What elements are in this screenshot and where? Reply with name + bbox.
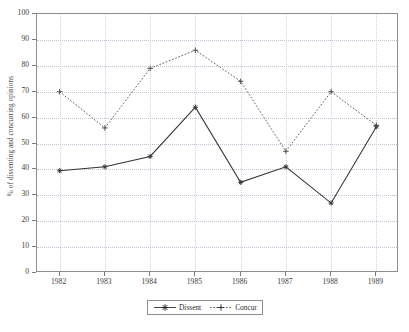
figure-caption: [0, 322, 409, 332]
x-axis-tick-mark: [194, 272, 195, 276]
x-axis-tick-label: 1989: [355, 277, 395, 286]
x-axis-tick-label: 1984: [129, 277, 169, 286]
x-axis-tick-label: 1986: [220, 277, 260, 286]
x-axis-tick-label: 1982: [39, 277, 79, 286]
data-point-concur: [374, 123, 380, 129]
legend-swatch-dissent: [153, 303, 177, 312]
y-axis-tick-label: 60: [3, 113, 29, 121]
y-axis-tick-label: 100: [3, 9, 29, 17]
data-point-dissent: [57, 168, 62, 173]
y-axis-tick-label: 90: [3, 35, 29, 43]
series-plot: [37, 14, 399, 273]
data-point-concur: [238, 79, 244, 85]
y-axis-tick-label: 50: [3, 139, 29, 147]
y-axis-tick-label: 30: [3, 190, 29, 198]
data-point-dissent: [102, 164, 107, 169]
series-line-concur: [60, 50, 377, 151]
data-point-concur: [193, 47, 199, 53]
legend-entry-dissent[interactable]: Dissent: [153, 303, 201, 312]
y-axis-tick-label: 80: [3, 61, 29, 69]
x-axis-tick-mark: [104, 272, 105, 276]
x-axis-tick-mark: [330, 272, 331, 276]
x-axis-tick-mark: [375, 272, 376, 276]
x-axis-tick-mark: [59, 272, 60, 276]
x-axis-tick-mark: [149, 272, 150, 276]
legend-entry-concur[interactable]: Concur: [209, 303, 257, 312]
data-point-dissent: [283, 164, 288, 169]
chart-legend: Dissent Concur: [147, 300, 263, 315]
x-axis-tick-label: 1985: [174, 277, 214, 286]
y-axis-tick-mark: [32, 272, 36, 273]
series-line-dissent: [60, 107, 377, 203]
legend-label-dissent: Dissent: [179, 303, 201, 312]
data-point-dissent: [148, 154, 153, 159]
data-point-dissent: [329, 200, 334, 205]
plot-area: [36, 13, 398, 272]
legend-swatch-concur: [209, 303, 233, 312]
data-point-concur: [57, 89, 63, 95]
y-axis-tick-label: 70: [3, 87, 29, 95]
x-axis-tick-label: 1988: [310, 277, 350, 286]
chart-figure: % of dissenting and concurring opinions …: [0, 0, 409, 332]
y-axis-tick-label: 20: [3, 216, 29, 224]
data-point-dissent: [193, 105, 198, 110]
y-axis-tick-label: 40: [3, 164, 29, 172]
data-point-dissent: [238, 180, 243, 185]
x-axis-tick-label: 1987: [265, 277, 305, 286]
x-axis-tick-mark: [285, 272, 286, 276]
x-axis-tick-label: 1983: [84, 277, 124, 286]
y-axis-tick-label: 10: [3, 242, 29, 250]
y-axis-tick-label: 0: [3, 268, 29, 276]
data-point-concur: [283, 148, 289, 154]
legend-label-concur: Concur: [235, 303, 257, 312]
x-axis-tick-mark: [240, 272, 241, 276]
